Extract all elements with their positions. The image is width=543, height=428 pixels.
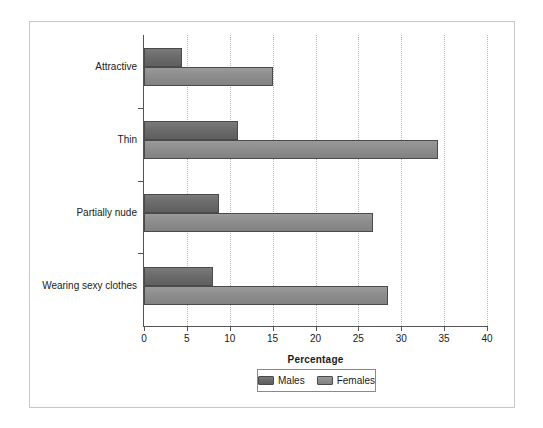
x-tick xyxy=(358,326,359,331)
bar-males-3 xyxy=(144,267,213,286)
category-label: Thin xyxy=(118,134,137,145)
x-axis-title: Percentage xyxy=(144,354,487,365)
gridline xyxy=(401,35,403,326)
bar-females-2 xyxy=(144,213,373,232)
x-tick-label: 0 xyxy=(124,333,164,344)
x-tick-label: 10 xyxy=(210,333,250,344)
bar-males-1 xyxy=(144,121,238,140)
bar-females-0 xyxy=(144,67,273,86)
x-tick-label: 5 xyxy=(167,333,207,344)
x-tick-label: 25 xyxy=(338,333,378,344)
chart-figure: 0510152025303540 AttractiveThinPartially… xyxy=(29,21,515,408)
category-label: Partially nude xyxy=(76,207,137,218)
legend-entry-females: Females xyxy=(317,375,375,386)
y-tick xyxy=(138,108,144,109)
x-tick-label: 40 xyxy=(467,333,507,344)
bar-males-0 xyxy=(144,48,182,67)
legend-entry-males: Males xyxy=(258,375,305,386)
gridline xyxy=(444,35,446,326)
x-tick xyxy=(187,326,188,331)
category-label: Wearing sexy clothes xyxy=(42,280,137,291)
gridline xyxy=(487,35,489,326)
x-tick xyxy=(273,326,274,331)
legend-label-males: Males xyxy=(278,375,305,386)
legend-swatch-females-icon xyxy=(317,376,333,385)
plot-area: 0510152025303540 AttractiveThinPartially… xyxy=(144,35,487,326)
bar-females-1 xyxy=(144,140,438,159)
x-tick-label: 15 xyxy=(253,333,293,344)
gridline xyxy=(358,35,360,326)
x-tick-label: 20 xyxy=(296,333,336,344)
chart-legend: Males Females xyxy=(257,369,376,392)
legend-swatch-males-icon xyxy=(258,376,274,385)
gridline xyxy=(316,35,318,326)
x-tick xyxy=(487,326,488,331)
gridline xyxy=(273,35,275,326)
category-label: Attractive xyxy=(95,61,137,72)
y-tick xyxy=(138,253,144,254)
x-tick xyxy=(401,326,402,331)
x-tick xyxy=(316,326,317,331)
y-tick xyxy=(138,181,144,182)
x-tick xyxy=(144,326,145,331)
x-tick-label: 30 xyxy=(381,333,421,344)
legend-label-females: Females xyxy=(337,375,375,386)
x-tick xyxy=(444,326,445,331)
bar-males-2 xyxy=(144,194,219,213)
x-tick-label: 35 xyxy=(424,333,464,344)
x-tick xyxy=(230,326,231,331)
bar-females-3 xyxy=(144,286,388,305)
